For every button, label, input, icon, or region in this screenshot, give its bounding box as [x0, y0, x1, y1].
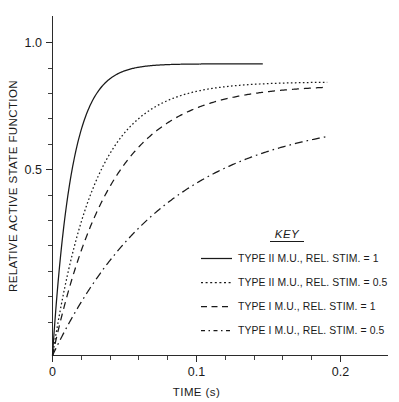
legend-label-0: TYPE II M.U., REL. STIM. = 1 — [238, 253, 379, 264]
legend-label-3: TYPE I M.U., REL. STIM. = 0.5 — [238, 325, 385, 336]
y-ticklabel-0.5: 0.5 — [25, 163, 42, 177]
legend-title: KEY — [275, 228, 300, 240]
y-axis-title: RELATIVE ACTIVE STATE FUNCTION — [7, 80, 19, 292]
legend-label-1: TYPE II M.U., REL. STIM. = 0.5 — [238, 277, 387, 288]
x-ticklabel-0.2: 0.2 — [332, 365, 349, 379]
x-axis-title: TIME (s) — [173, 386, 220, 398]
plot-background — [0, 0, 399, 402]
y-ticklabel-1.0: 1.0 — [25, 36, 42, 50]
legend-label-2: TYPE I M.U., REL. STIM. = 1 — [238, 301, 376, 312]
active-state-function-plot: 1.0 0.5 0 0.1 0.2 TIME (s) RELATIVE ACTI… — [0, 0, 399, 402]
x-ticklabel-0: 0 — [49, 365, 56, 379]
x-ticklabel-0.1: 0.1 — [188, 365, 205, 379]
chart-figure: 1.0 0.5 0 0.1 0.2 TIME (s) RELATIVE ACTI… — [0, 0, 399, 402]
